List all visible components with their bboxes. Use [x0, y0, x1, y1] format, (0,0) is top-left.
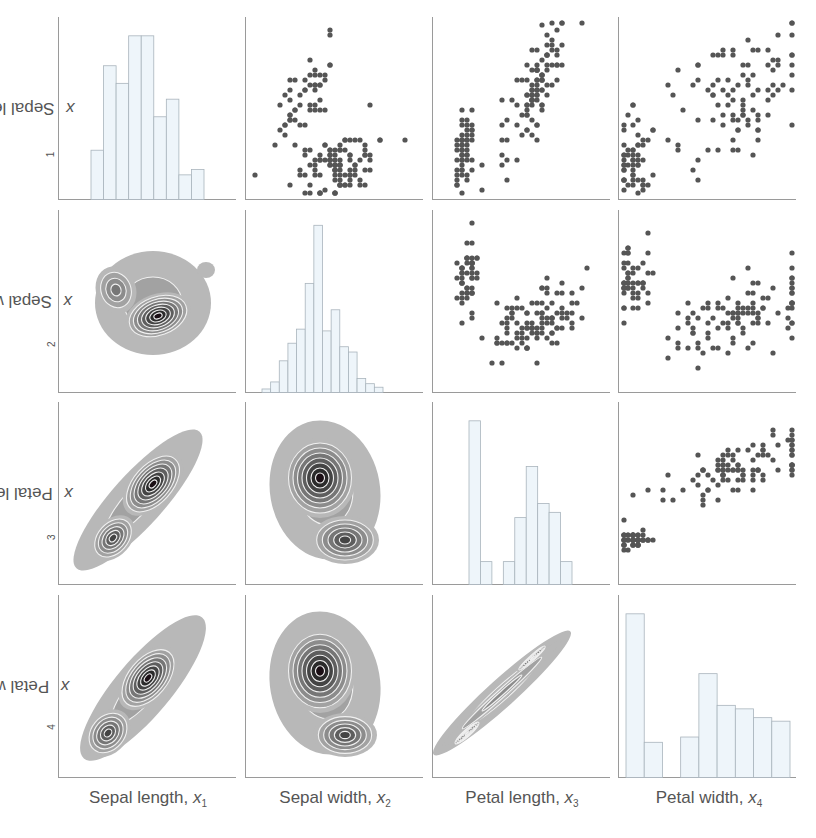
scatter-point — [621, 537, 626, 542]
scatter-point — [625, 260, 630, 265]
histogram-bar — [503, 562, 514, 585]
scatter-point — [760, 452, 765, 457]
kde-contour-level — [339, 536, 350, 544]
scatter-point — [559, 325, 564, 330]
scatter-point — [539, 320, 544, 325]
scatter-point — [635, 265, 640, 270]
scatter-point — [514, 122, 519, 127]
scatter-point — [680, 107, 685, 112]
scatter-point — [459, 190, 464, 195]
scatter-point — [539, 300, 544, 305]
scatter-point — [362, 147, 367, 152]
scatter-point — [367, 167, 372, 172]
scatter-point — [519, 112, 524, 117]
histogram-bar — [179, 175, 192, 200]
scatter-point — [789, 467, 794, 472]
scatter-point — [322, 72, 327, 77]
kde-contour-petal-length-vs-sepal-length — [58, 400, 240, 586]
scatter-point — [469, 107, 474, 112]
scatter-point — [630, 532, 635, 537]
scatter-point — [645, 537, 650, 542]
scatter-point — [312, 72, 317, 77]
scatter-point — [710, 92, 715, 97]
scatter-point — [675, 310, 680, 315]
scatter-point — [534, 77, 539, 82]
scatter-point — [789, 122, 794, 127]
scatter-point — [454, 157, 459, 162]
scatter-point — [715, 52, 720, 57]
scatter-point — [544, 32, 549, 37]
scatter-point — [454, 167, 459, 172]
scatter-point — [775, 87, 780, 92]
scatter-point — [730, 97, 735, 102]
scatter-point — [635, 142, 640, 147]
scatter-point — [695, 365, 700, 370]
histogram-bar — [331, 310, 340, 393]
scatter-point — [509, 315, 514, 320]
scatter-point — [469, 122, 474, 127]
scatter-point — [621, 187, 626, 192]
scatter-point — [534, 310, 539, 315]
x-label-sepal-width: Sepal width, x2 — [245, 788, 425, 818]
scatter-point — [765, 112, 770, 117]
scatter-point — [750, 107, 755, 112]
scatter-point — [524, 107, 529, 112]
scatter-point — [789, 250, 794, 255]
scatter-point — [499, 137, 504, 142]
scatter-point — [740, 102, 745, 107]
scatter-point — [459, 147, 464, 152]
histogram-bar — [297, 329, 306, 392]
scatter-point — [720, 457, 725, 462]
scatter-point — [695, 77, 700, 82]
scatter-point — [775, 310, 780, 315]
scatter-point — [494, 340, 499, 345]
scatter-point — [459, 132, 464, 137]
scatter-point — [494, 335, 499, 340]
scatter-point — [469, 290, 474, 295]
scatter-point — [519, 335, 524, 340]
scatter-point — [730, 457, 735, 462]
scatter-point — [459, 157, 464, 162]
histogram-bar — [480, 562, 491, 585]
scatter-point — [504, 320, 509, 325]
scatter-point — [789, 62, 794, 67]
scatter-point — [524, 310, 529, 315]
scatter-point — [665, 82, 670, 87]
scatter-point — [519, 330, 524, 335]
scatter-point — [730, 275, 735, 280]
scatter-point — [765, 62, 770, 67]
scatter-point — [705, 87, 710, 92]
scatter-point — [621, 547, 626, 552]
scatter-point — [789, 87, 794, 92]
scatter-point — [725, 447, 730, 452]
scatter-point — [789, 290, 794, 295]
histogram-sepal-length-vs-sepal-length — [58, 15, 240, 201]
scatter-point — [554, 290, 559, 295]
scatter-point — [307, 102, 312, 107]
scatter-point — [454, 182, 459, 187]
scatter-point — [524, 345, 529, 350]
x-label-sepal-length: Sepal length, x1 — [58, 788, 238, 818]
scatter-point — [292, 142, 297, 147]
scatter-point — [725, 77, 730, 82]
scatter-point — [735, 300, 740, 305]
scatter-point — [750, 305, 755, 310]
scatter-point — [750, 72, 755, 77]
scatter-point — [459, 320, 464, 325]
scatter-point — [650, 270, 655, 275]
scatter-point — [621, 250, 626, 255]
histogram-bar — [754, 718, 772, 778]
scatter-point — [789, 275, 794, 280]
scatter-point — [740, 107, 745, 112]
scatter-point — [630, 147, 635, 152]
scatter-point — [367, 157, 372, 162]
scatter-point — [504, 330, 509, 335]
scatter-point — [534, 97, 539, 102]
scatter-point — [312, 167, 317, 172]
scatter-point — [725, 92, 730, 97]
scatter-point — [514, 157, 519, 162]
scatter-point — [730, 112, 735, 117]
scatter-point — [715, 77, 720, 82]
scatter-point — [529, 330, 534, 335]
scatter-point — [621, 290, 626, 295]
